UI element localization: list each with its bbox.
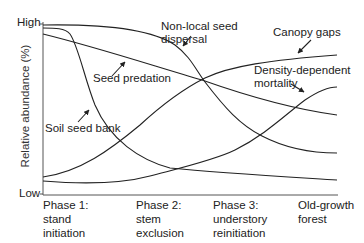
y-high-label: High xyxy=(17,16,41,29)
axes xyxy=(40,22,338,195)
y-axis-label: Relative abundance (%) xyxy=(19,41,31,171)
phase-3-label: Phase 3: understory reinitiation xyxy=(213,198,267,240)
phase-2-label: Phase 2: stem exclusion xyxy=(136,198,184,240)
curve-soil-seed-bank xyxy=(43,28,337,180)
label-density-dependent-mortality: Density-dependent mortality xyxy=(254,64,351,90)
arrow-canopy-gaps xyxy=(298,40,311,53)
y-low-label: Low xyxy=(19,187,40,200)
label-non-local-seed-dispersal: Non-local seed dispersal xyxy=(161,20,238,46)
label-canopy-gaps: Canopy gaps xyxy=(273,26,341,39)
label-seed-predation: Seed predation xyxy=(93,72,171,85)
old-growth-label: Old-growth forest xyxy=(298,198,354,226)
arrow-soil-seed-bank xyxy=(78,110,89,122)
phase-1-label: Phase 1: stand initiation xyxy=(43,198,88,240)
label-soil-seed-bank: Soil seed bank xyxy=(45,122,120,135)
